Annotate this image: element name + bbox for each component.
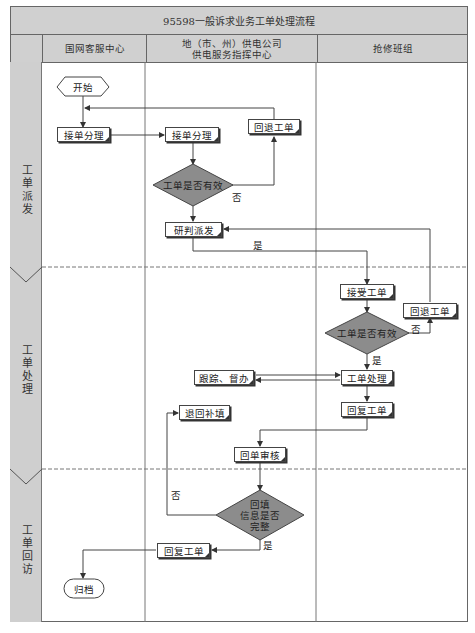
info-complete-line1: 回填: [250, 499, 270, 510]
review-reply-node[interactable]: 回单审核: [234, 447, 286, 462]
archive-node[interactable]: 归档: [64, 579, 104, 598]
edge-label-yes-dispatch: 是: [253, 238, 263, 252]
info-complete-decision[interactable]: 回填 信息是否 完整: [222, 497, 298, 533]
edge-label-no-review: 否: [171, 488, 181, 502]
judge-dispatch-node[interactable]: 研判派发: [165, 222, 222, 237]
info-complete-line2: 信息是否: [240, 510, 280, 521]
stage-label-dispatch: 工单派发: [10, 140, 42, 240]
return-ticket-center-node[interactable]: 回退工单: [248, 119, 300, 134]
stage-label-processing: 工单处理: [10, 330, 42, 410]
return-fill-node[interactable]: 退回补填: [179, 405, 230, 420]
accept-ticket-center-node[interactable]: 接单分理: [165, 127, 219, 142]
ticket-process-node[interactable]: 工单处理: [341, 370, 393, 385]
ticket-valid-decision-center[interactable]: 工单是否有效: [153, 176, 233, 194]
return-ticket-repair-node[interactable]: 回退工单: [403, 303, 457, 318]
edge-label-no-repair: 否: [411, 322, 421, 336]
reply-ticket-repair-node[interactable]: 回复工单: [341, 402, 393, 417]
info-complete-line3: 完整: [250, 521, 270, 532]
edge-label-yes-review: 是: [263, 538, 273, 552]
track-supervise-node[interactable]: 跟踪、督办: [194, 370, 254, 385]
stage-label-revisit: 工单回访: [10, 500, 42, 600]
ticket-valid-decision-repair[interactable]: 工单是否有效: [325, 324, 409, 342]
edge-label-yes-repair: 是: [372, 353, 382, 367]
reply-ticket-customer-node[interactable]: 回复工单: [157, 543, 210, 558]
receive-ticket-node[interactable]: 接受工单: [340, 284, 394, 299]
accept-ticket-customer-node[interactable]: 接单分理: [57, 127, 110, 142]
start-node[interactable]: 开始: [57, 77, 109, 96]
edge-label-no-center: 否: [232, 190, 242, 204]
